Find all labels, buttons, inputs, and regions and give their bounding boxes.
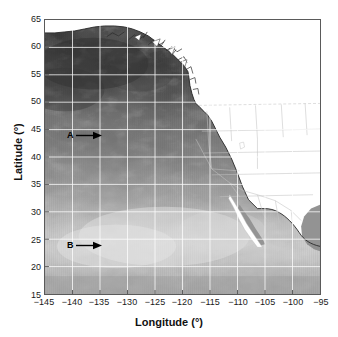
ytick-label: 60 <box>11 42 41 51</box>
y-axis-title: Latitude (°) <box>12 72 24 232</box>
xtick-label: −95 <box>304 298 338 307</box>
ytick-label: 20 <box>11 263 41 272</box>
ytick-label: 65 <box>11 15 41 24</box>
map-raster <box>45 20 320 294</box>
ytick-label: 25 <box>11 236 41 245</box>
map-plot-area: A B <box>44 19 321 295</box>
figure-canvas: A B 65 60 55 50 45 40 35 30 25 20 15 −14… <box>0 0 338 337</box>
x-axis-title: Longitude (°) <box>0 316 338 328</box>
